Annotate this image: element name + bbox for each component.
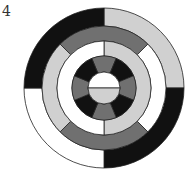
concentric-ring-diagram: [0, 0, 194, 174]
center-disc: [88, 72, 120, 104]
